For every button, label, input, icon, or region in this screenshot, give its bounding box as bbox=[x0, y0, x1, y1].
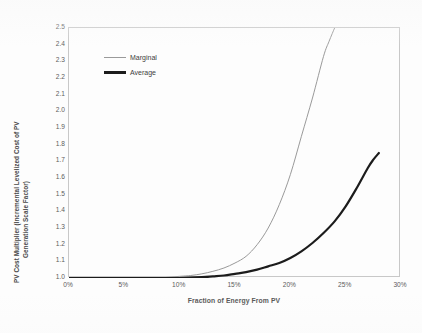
legend-item-average: Average bbox=[104, 65, 194, 80]
x-tick-label: 5% bbox=[108, 282, 138, 289]
legend-label-average: Average bbox=[130, 69, 156, 76]
x-tick-label: 20% bbox=[274, 282, 304, 289]
x-tick-label: 30% bbox=[385, 282, 415, 289]
x-axis-title: Fraction of Energy From PV bbox=[68, 297, 400, 304]
x-tick-label: 25% bbox=[330, 282, 360, 289]
legend-line-average-icon bbox=[104, 69, 126, 77]
x-tick-label: 10% bbox=[164, 282, 194, 289]
x-tick-label: 0% bbox=[53, 282, 83, 289]
x-tick-label: 15% bbox=[219, 282, 249, 289]
legend-line-marginal-icon bbox=[104, 54, 126, 62]
chart-figure: PV Cost Multiplier (Incremental Levelize… bbox=[0, 0, 422, 333]
chart-legend: Marginal Average bbox=[104, 50, 194, 80]
legend-item-marginal: Marginal bbox=[104, 50, 194, 65]
series-line-average bbox=[69, 153, 379, 278]
legend-label-marginal: Marginal bbox=[130, 54, 157, 61]
